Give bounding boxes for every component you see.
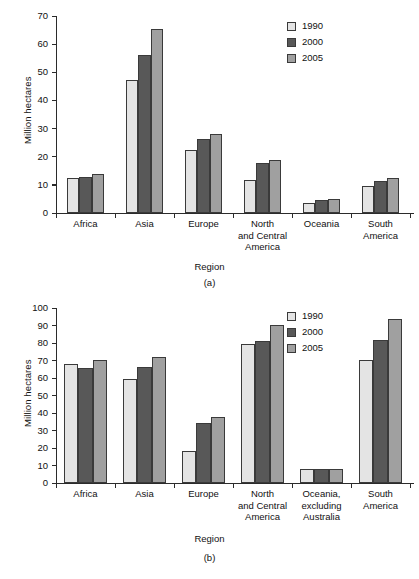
y-axis-tick	[52, 184, 56, 185]
y-axis-tick	[52, 72, 56, 73]
bar-1990-south-america	[362, 186, 375, 213]
x-axis-line	[56, 213, 414, 214]
x-axis-category-line: America	[345, 230, 416, 242]
bar-2000-europe	[196, 423, 211, 483]
y-axis-tick-label: 10	[18, 180, 48, 190]
legend-label: 2005	[302, 343, 323, 353]
legend-swatch-2000	[287, 38, 296, 47]
bar-2005-europe	[211, 417, 226, 483]
bar-1990-north-and-central-america	[244, 180, 257, 213]
bar-2000-oceania	[315, 200, 328, 213]
legend-label: 1990	[302, 311, 323, 321]
legend-label: 2005	[302, 53, 323, 63]
legend-label: 2000	[302, 37, 323, 47]
y-axis-tick	[52, 156, 56, 157]
y-axis-tick-label: 70	[18, 11, 48, 21]
x-axis-tick	[351, 484, 352, 488]
y-axis-tick-label: 80	[18, 338, 48, 348]
x-axis-category-label: SouthAmerica	[345, 218, 416, 241]
y-axis-tick-label: 100	[18, 303, 48, 313]
bar-1990-asia	[123, 379, 138, 483]
panel-tag: (a)	[0, 277, 419, 288]
y-axis-tick	[52, 448, 56, 449]
bar-1990-europe	[182, 451, 197, 483]
bar-1990-africa	[64, 364, 79, 483]
bar-2000-oceania--excluding-australia	[314, 469, 329, 483]
bar-1990-asia	[126, 80, 139, 213]
x-axis-category-line: Australia	[286, 511, 357, 523]
bar-2005-africa	[93, 360, 108, 483]
y-axis-tick	[52, 308, 56, 309]
bar-2005-south-america	[388, 319, 403, 483]
bar-2005-north-and-central-america	[269, 160, 282, 213]
bar-2005-north-and-central-america	[270, 325, 285, 483]
y-axis-tick	[52, 325, 56, 326]
x-axis-tick	[115, 484, 116, 488]
x-axis-tick	[351, 214, 352, 218]
legend-item-1990[interactable]: 1990	[287, 18, 323, 34]
x-axis-title: Region	[0, 533, 419, 544]
y-axis-tick	[52, 343, 56, 344]
chart-panel-a: 010203040506070Million hectaresAfricaAsi…	[0, 0, 419, 290]
bar-2000-africa	[79, 177, 92, 213]
y-axis-tick-label: 60	[18, 39, 48, 49]
x-axis-tick	[56, 214, 57, 218]
y-axis-tick	[52, 430, 56, 431]
x-axis-tick	[56, 484, 57, 488]
legend-swatch-2000	[287, 328, 296, 337]
legend-item-2000[interactable]: 2000	[287, 324, 323, 340]
y-axis-tick	[52, 16, 56, 17]
x-axis-category-label: SouthAmerica	[345, 488, 416, 511]
bar-1990-europe	[185, 150, 198, 213]
y-axis-title: Million hectares	[22, 359, 33, 427]
y-axis-title: Million hectares	[22, 76, 33, 144]
legend-item-2005[interactable]: 2005	[287, 340, 323, 356]
x-axis-category-line: South	[345, 488, 416, 500]
bar-1990-south-america	[359, 360, 374, 483]
bar-2005-africa	[92, 174, 105, 213]
x-axis-line	[56, 483, 414, 484]
y-axis-tick	[52, 378, 56, 379]
x-axis-category-line: South	[345, 218, 416, 230]
y-axis-tick	[52, 395, 56, 396]
legend-swatch-2005	[287, 344, 296, 353]
x-axis-category-line: America	[227, 241, 298, 253]
legend-swatch-2005	[287, 54, 296, 63]
y-axis-tick	[52, 100, 56, 101]
y-axis-tick	[52, 360, 56, 361]
panel-tag: (b)	[0, 552, 419, 563]
bar-2005-south-america	[387, 178, 400, 213]
bar-2000-africa	[78, 368, 93, 484]
x-axis-tick	[174, 214, 175, 218]
bar-2005-europe	[210, 134, 223, 213]
bar-2000-south-america	[374, 181, 387, 213]
x-axis-tick	[410, 484, 411, 488]
legend-item-1990[interactable]: 1990	[287, 308, 323, 324]
y-axis-tick	[52, 44, 56, 45]
bar-2005-oceania	[328, 199, 341, 213]
legend-item-2005[interactable]: 2005	[287, 50, 323, 66]
legend-item-2000[interactable]: 2000	[287, 34, 323, 50]
y-axis-tick	[52, 465, 56, 466]
y-axis-tick-label: 90	[18, 321, 48, 331]
y-axis-tick-label: 10	[18, 461, 48, 471]
x-axis-tick	[410, 214, 411, 218]
y-axis-line	[56, 16, 57, 214]
y-axis-tick-label: 20	[18, 443, 48, 453]
bar-1990-oceania	[303, 203, 316, 213]
legend-label: 1990	[302, 21, 323, 31]
x-axis-tick	[233, 214, 234, 218]
bar-1990-oceania--excluding-australia	[300, 469, 315, 483]
bar-2005-asia	[152, 357, 167, 483]
x-axis-tick	[115, 214, 116, 218]
bar-2005-oceania--excluding-australia	[329, 469, 344, 483]
bar-2000-south-america	[373, 340, 388, 484]
bar-2000-asia	[137, 367, 152, 483]
y-axis-tick	[52, 413, 56, 414]
y-axis-tick-label: 0	[18, 478, 48, 488]
bar-2005-asia	[151, 29, 164, 213]
bar-2000-north-and-central-america	[256, 163, 269, 213]
plot-area-b: 0102030405060708090100Million hectaresAf…	[0, 290, 419, 579]
x-axis-tick	[174, 484, 175, 488]
x-axis-category-line: America	[345, 500, 416, 512]
